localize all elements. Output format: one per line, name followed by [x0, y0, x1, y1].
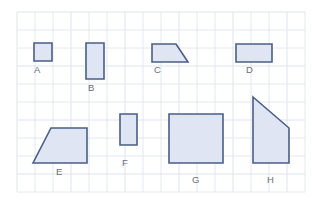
shape-label-a: A — [34, 65, 41, 75]
shape-label-g: G — [192, 175, 200, 185]
shape-label-c: C — [154, 65, 161, 75]
worksheet-canvas: ABCDEFGH — [0, 0, 318, 209]
shape-g[interactable] — [169, 114, 223, 163]
shape-label-e: E — [56, 167, 63, 177]
shape-label-b: B — [88, 83, 95, 93]
grid-lines — [17, 12, 305, 192]
shape-f[interactable] — [120, 114, 137, 145]
shape-label-d: D — [246, 65, 253, 75]
shape-c[interactable] — [152, 44, 188, 62]
shape-d[interactable] — [236, 44, 272, 62]
shape-label-f: F — [122, 158, 128, 168]
shape-label-h: H — [267, 175, 274, 185]
shape-b[interactable] — [86, 43, 104, 79]
shape-h[interactable] — [253, 97, 289, 163]
shape-e[interactable] — [33, 128, 87, 163]
shape-a[interactable] — [34, 43, 52, 61]
